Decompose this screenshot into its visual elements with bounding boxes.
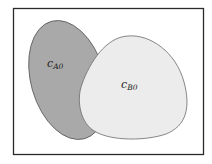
region-a-label-sub: A0 [52,62,63,71]
diagram-canvas: cA0 cB0 [0,0,212,164]
region-b-label-sub: B0 [126,83,138,92]
